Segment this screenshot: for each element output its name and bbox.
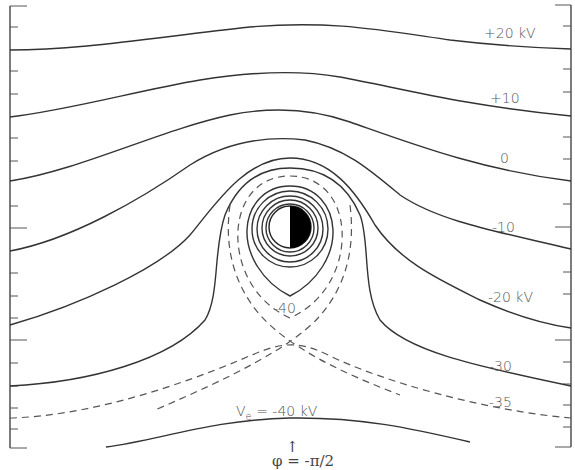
label-zero: 0 <box>500 150 509 166</box>
planet-body-icon <box>269 206 311 248</box>
label-minus40: -40 <box>273 300 296 316</box>
right-axis <box>555 5 571 447</box>
label-plus20: +20 kV <box>484 25 536 41</box>
label-minus20: -20 kV <box>488 289 533 305</box>
label-plus10: +10 <box>490 90 520 106</box>
label-minus10: -10 <box>492 219 515 235</box>
label-minus30: -30 <box>489 358 512 374</box>
equipotential-contour-diagram: +20 kV +10 0 -10 -20 kV -30 -35 -40 Ve =… <box>0 0 575 470</box>
separatrix-left-branch <box>228 205 400 395</box>
contour-zero <box>10 110 571 181</box>
annotation-phi: φ = -π/2 <box>272 452 334 470</box>
left-axis <box>10 6 27 448</box>
label-minus35: -35 <box>489 394 512 410</box>
